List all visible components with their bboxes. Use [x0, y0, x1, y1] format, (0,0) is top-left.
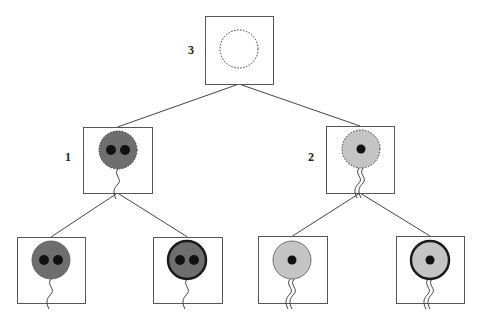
node-n5	[154, 238, 223, 310]
tree-edge	[293, 193, 361, 236]
lineage-tree-diagram: 312	[0, 0, 481, 318]
node-label: 2	[308, 150, 314, 164]
node-label: 3	[188, 43, 194, 57]
node-n4	[18, 238, 86, 310]
nucleus-icon	[53, 255, 63, 265]
tree-edge	[360, 193, 430, 236]
tree-edge	[239, 84, 360, 126]
node-n3	[206, 17, 274, 85]
nucleus-icon	[189, 255, 199, 265]
node-n2	[327, 127, 395, 199]
nucleus-icon	[175, 255, 185, 265]
node-n6	[259, 237, 328, 310]
cell-body-icon	[99, 131, 137, 169]
nucleus-icon	[120, 145, 130, 155]
tree-edge	[51, 193, 118, 237]
node-label: 1	[65, 150, 71, 164]
tree-nodes	[18, 17, 465, 310]
nucleus-icon	[106, 145, 116, 155]
cell-body-icon	[32, 241, 70, 279]
nucleus-icon	[39, 255, 49, 265]
tree-edge	[118, 193, 188, 237]
nucleus-icon	[357, 145, 366, 154]
node-n1	[84, 128, 153, 200]
node-n7	[397, 237, 465, 310]
tree-edge	[118, 84, 240, 127]
cell-body-icon	[168, 241, 206, 279]
node-box	[206, 17, 274, 85]
nucleus-icon	[426, 256, 435, 265]
nucleus-icon	[288, 256, 297, 265]
diagram-svg: 312	[0, 0, 481, 318]
